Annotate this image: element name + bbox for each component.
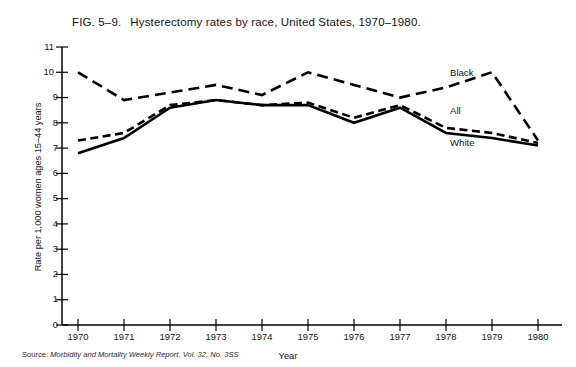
source-note: Source: Morbidity and Mortality Weekly R… — [22, 350, 239, 359]
source-label: Source: — [22, 350, 48, 359]
figure-container: FIG. 5–9.Hysterectomy rates by race, Uni… — [0, 0, 576, 367]
source-citation: Morbidity and Mortality Weekly Report, V… — [50, 350, 238, 359]
series-line-white — [78, 100, 538, 153]
chart-plot-area — [0, 0, 576, 367]
